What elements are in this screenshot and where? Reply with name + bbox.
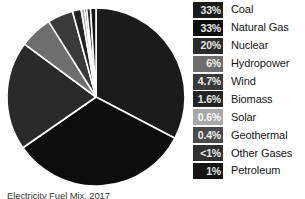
legend-row[interactable]: 0.4%Geothermal: [193, 126, 305, 144]
legend-percent: 1.6%: [198, 94, 221, 105]
pie-slice-group: [7, 8, 185, 186]
legend-row[interactable]: 33%Coal: [193, 1, 305, 19]
legend-label: Biomass: [231, 94, 272, 105]
legend-row[interactable]: 1%Petroleum: [193, 162, 305, 180]
legend-swatch: 20%: [193, 38, 223, 54]
legend-label: Other Gases: [231, 148, 292, 159]
legend-row[interactable]: 4.7%Wind: [193, 73, 305, 91]
legend-percent: 4.7%: [198, 76, 221, 87]
legend-percent: 33%: [201, 23, 221, 34]
chart-legend: 33%Coal33%Natural Gas20%Nuclear6%Hydropo…: [193, 1, 305, 197]
legend-swatch: 6%: [193, 56, 223, 72]
legend-row[interactable]: 6%Hydropower: [193, 55, 305, 73]
legend-swatch: 0.4%: [193, 127, 223, 143]
legend-percent: 33%: [201, 5, 221, 16]
legend-swatch: 0.6%: [193, 109, 223, 125]
legend-label: Coal: [231, 4, 253, 15]
legend-label: Petroleum: [231, 165, 280, 176]
legend-swatch: 1.6%: [193, 91, 223, 107]
legend-percent: 20%: [201, 40, 221, 51]
legend-percent: 0.6%: [198, 112, 221, 123]
legend-label: Hydropower: [231, 58, 289, 69]
pie-chart-figure: 33%Coal33%Natural Gas20%Nuclear6%Hydropo…: [0, 0, 305, 199]
legend-swatch: 1%: [193, 163, 223, 179]
legend-swatch: 33%: [193, 2, 223, 18]
legend-label: Natural Gas: [231, 22, 289, 33]
legend-percent: 6%: [206, 58, 221, 69]
legend-row[interactable]: 1.6%Biomass: [193, 90, 305, 108]
legend-swatch: <1%: [193, 145, 223, 161]
legend-row[interactable]: 0.6%Solar: [193, 108, 305, 126]
legend-percent: 0.4%: [198, 130, 221, 141]
legend-percent: 1%: [206, 166, 221, 177]
legend-swatch: 4.7%: [193, 74, 223, 90]
figure-caption: Electricity Fuel Mix, 2017: [7, 190, 110, 199]
legend-label: Geothermal: [231, 130, 287, 141]
legend-row[interactable]: <1%Other Gases: [193, 144, 305, 162]
legend-row[interactable]: 33%Natural Gas: [193, 19, 305, 37]
legend-label: Solar: [231, 112, 256, 123]
legend-row[interactable]: 20%Nuclear: [193, 37, 305, 55]
pie-chart: [5, 6, 187, 188]
legend-label: Nuclear: [231, 40, 268, 51]
legend-label: Wind: [231, 76, 256, 87]
pie-chart-svg: [5, 6, 187, 188]
legend-swatch: 33%: [193, 20, 223, 36]
legend-percent: <1%: [200, 148, 221, 159]
